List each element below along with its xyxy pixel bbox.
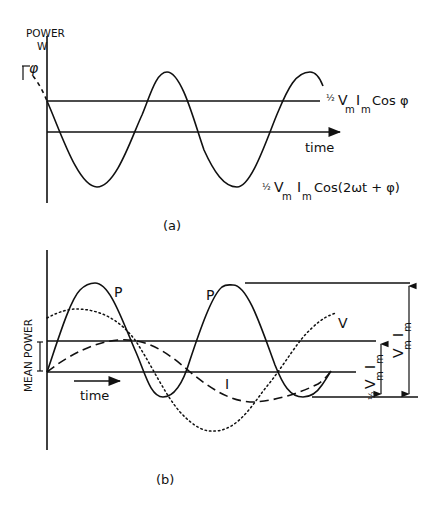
b-power-curve [47, 283, 331, 397]
svg-text:I: I [362, 365, 378, 369]
svg-text:½: ½ [326, 93, 335, 103]
svg-text:Cos(2ωt + φ): Cos(2ωt + φ) [314, 180, 400, 195]
a-y-axis-label-w: W [37, 40, 48, 52]
a-curve-label: ½ V m I m Cos(2ωt + φ) [262, 179, 400, 202]
a-phi-lead-dashed [33, 76, 47, 101]
svg-text:I: I [356, 92, 360, 108]
a-power-curve [47, 72, 323, 187]
a-caption: (a) [163, 218, 181, 233]
a-mean-label: ½ V m I m Cos φ [326, 92, 409, 115]
svg-text:m: m [374, 371, 385, 381]
b-power-label-2: P [206, 287, 214, 303]
b-y-axis-label: MEAN POWER [22, 319, 34, 392]
a-phi-marker: φ [29, 60, 39, 76]
svg-text:½: ½ [262, 182, 271, 192]
b-voltage-curve [47, 309, 336, 431]
b-voltage-label: V [338, 315, 348, 331]
svg-text:I: I [390, 333, 406, 337]
svg-text:m: m [402, 322, 413, 332]
b-power-label-1: P [114, 284, 122, 300]
svg-text:m: m [345, 104, 355, 115]
svg-text:m: m [282, 191, 292, 202]
figure-b: MEAN POWER time V I P P V m I [22, 250, 418, 487]
figure-a: POWER W φ time ½ V m I m Cos φ ½ V m I m [22, 27, 409, 233]
svg-text:Cos φ: Cos φ [372, 93, 409, 108]
svg-text:m: m [402, 340, 413, 350]
svg-text:I: I [297, 179, 301, 195]
svg-text:m: m [361, 104, 371, 115]
svg-text:m: m [374, 354, 385, 364]
b-caption: (b) [156, 472, 174, 487]
b-time-label: time [80, 388, 109, 403]
svg-text:½: ½ [367, 391, 377, 400]
b-current-label: I [225, 376, 229, 392]
a-time-label: time [305, 140, 334, 155]
ac-power-diagram: POWER W φ time ½ V m I m Cos φ ½ V m I m [0, 0, 438, 512]
a-y-axis-label-power: POWER [26, 27, 65, 39]
svg-text:m: m [302, 191, 312, 202]
